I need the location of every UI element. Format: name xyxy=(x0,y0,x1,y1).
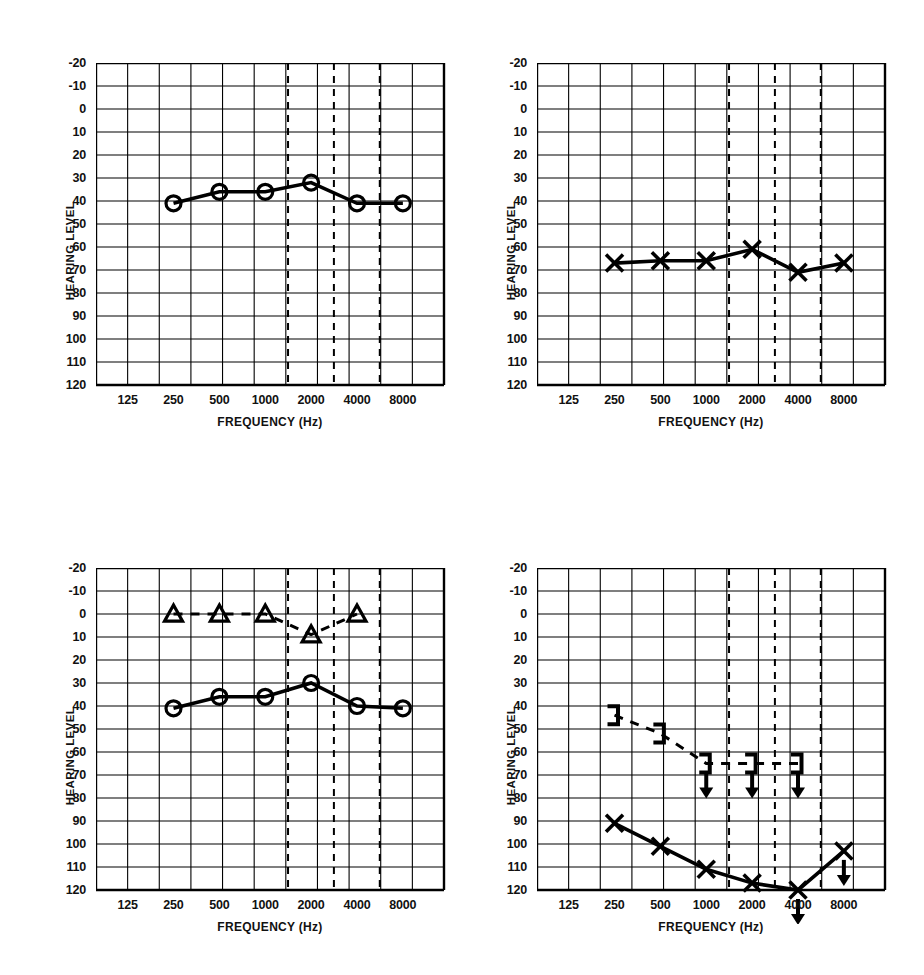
y-tick-label: -20 xyxy=(510,57,527,70)
x-tick-label: 1000 xyxy=(693,898,720,912)
y-tick-label: 120 xyxy=(507,379,527,392)
x-axis-title: FREQUENCY (Hz) xyxy=(217,415,322,429)
x-axis-title: FREQUENCY (Hz) xyxy=(658,415,763,429)
y-tick-label: 110 xyxy=(66,356,86,369)
x-tick-label: 250 xyxy=(604,898,624,912)
audiogram-grid-panel-bottom-left xyxy=(96,568,458,924)
y-tick-label: -10 xyxy=(69,585,86,598)
x-tick-label: 125 xyxy=(558,898,578,912)
y-tick-label: 50 xyxy=(513,723,527,736)
x-tick-label: 2000 xyxy=(298,898,325,912)
plot-area-bottom-left xyxy=(96,568,458,924)
audiogram-panel-top-right: HEARING LEVEL -20-1001020304050607080901… xyxy=(491,55,891,435)
y-tick-label: 110 xyxy=(507,861,527,874)
y-tick-label: 90 xyxy=(72,815,86,828)
x-tick-label: 2000 xyxy=(298,393,325,407)
audiogram-grid-panel-top-right xyxy=(537,63,899,419)
plot-area-bottom-right xyxy=(537,568,899,924)
audiogram-panel-bottom-left: HEARING LEVEL -20-1001020304050607080901… xyxy=(50,560,450,940)
y-tick-label: 90 xyxy=(513,815,527,828)
y-tick-label: 60 xyxy=(72,241,86,254)
x-tick-label: 1000 xyxy=(693,393,720,407)
y-tick-label: 100 xyxy=(507,333,527,346)
y-tick-label: 40 xyxy=(72,195,86,208)
plot-area-top-right xyxy=(537,63,899,419)
series-right-ear-air-conduction xyxy=(166,676,410,716)
y-tick-label: 70 xyxy=(72,769,86,782)
y-tick-label: 10 xyxy=(513,631,527,644)
x-axis-title: FREQUENCY (Hz) xyxy=(658,920,763,934)
x-tick-label: 4000 xyxy=(343,898,370,912)
x-tick-label: 2000 xyxy=(739,393,766,407)
y-tick-label: -20 xyxy=(69,562,86,575)
y-tick-label: 20 xyxy=(513,149,527,162)
y-tick-label: 10 xyxy=(513,126,527,139)
plot-area-top-left xyxy=(96,63,458,419)
y-tick-label: 50 xyxy=(72,218,86,231)
audiogram-grid-panel-bottom-right xyxy=(537,568,899,924)
x-tick-label: 250 xyxy=(604,393,624,407)
x-tick-label: 2000 xyxy=(739,898,766,912)
y-tick-label: 20 xyxy=(513,654,527,667)
y-tick-label: -20 xyxy=(510,562,527,575)
y-tick-label: 40 xyxy=(513,195,527,208)
x-tick-label: 250 xyxy=(163,393,183,407)
y-tick-label: 50 xyxy=(72,723,86,736)
y-tick-label: 120 xyxy=(66,379,86,392)
y-axis-tick-labels: -20-100102030405060708090100110120 xyxy=(50,55,88,435)
y-axis-tick-labels: -20-100102030405060708090100110120 xyxy=(50,560,88,940)
audiogram-panel-top-left: HEARING LEVEL -20-1001020304050607080901… xyxy=(50,55,450,435)
y-tick-label: 20 xyxy=(72,149,86,162)
y-axis-tick-labels: -20-100102030405060708090100110120 xyxy=(491,55,529,435)
x-tick-label: 1000 xyxy=(252,393,279,407)
x-axis-title: FREQUENCY (Hz) xyxy=(217,920,322,934)
x-tick-label: 4000 xyxy=(784,898,811,912)
x-tick-label: 250 xyxy=(163,898,183,912)
y-tick-label: -10 xyxy=(510,585,527,598)
x-tick-label: 8000 xyxy=(389,898,416,912)
x-tick-label: 8000 xyxy=(830,898,857,912)
x-tick-label: 500 xyxy=(650,898,670,912)
audiogram-grid-panel-top-left xyxy=(96,63,458,419)
y-tick-label: 110 xyxy=(66,861,86,874)
y-tick-label: 30 xyxy=(513,172,527,185)
x-tick-label: 125 xyxy=(117,898,137,912)
x-tick-label: 4000 xyxy=(343,393,370,407)
y-tick-label: 70 xyxy=(72,264,86,277)
y-tick-label: 100 xyxy=(66,838,86,851)
x-tick-label: 1000 xyxy=(252,898,279,912)
x-tick-label: 4000 xyxy=(784,393,811,407)
x-tick-label: 125 xyxy=(558,393,578,407)
y-tick-label: 10 xyxy=(72,631,86,644)
y-tick-label: 0 xyxy=(520,608,527,621)
y-tick-label: 60 xyxy=(72,746,86,759)
audiogram-figure-sheet: HEARING LEVEL -20-1001020304050607080901… xyxy=(0,0,924,975)
y-tick-label: 0 xyxy=(79,103,86,116)
y-tick-label: 80 xyxy=(513,287,527,300)
y-tick-label: -20 xyxy=(69,57,86,70)
y-tick-label: 0 xyxy=(79,608,86,621)
y-tick-label: 90 xyxy=(72,310,86,323)
y-axis-tick-labels: -20-100102030405060708090100110120 xyxy=(491,560,529,940)
y-tick-label: 60 xyxy=(513,241,527,254)
y-tick-label: 50 xyxy=(513,218,527,231)
y-tick-label: 100 xyxy=(507,838,527,851)
y-tick-label: -10 xyxy=(69,80,86,93)
y-tick-label: 60 xyxy=(513,746,527,759)
y-tick-label: 70 xyxy=(513,264,527,277)
x-tick-label: 500 xyxy=(650,393,670,407)
x-tick-label: 8000 xyxy=(830,393,857,407)
series-masked-bone-conduction xyxy=(165,605,366,642)
y-tick-label: 70 xyxy=(513,769,527,782)
x-tick-label: 500 xyxy=(209,898,229,912)
y-tick-label: 100 xyxy=(66,333,86,346)
y-tick-label: 80 xyxy=(72,792,86,805)
y-tick-label: -10 xyxy=(510,80,527,93)
y-tick-label: 0 xyxy=(520,103,527,116)
x-tick-label: 125 xyxy=(117,393,137,407)
y-tick-label: 20 xyxy=(72,654,86,667)
audiogram-panel-bottom-right: HEARING LEVEL -20-1001020304050607080901… xyxy=(491,560,891,940)
y-tick-label: 40 xyxy=(72,700,86,713)
y-tick-label: 80 xyxy=(72,287,86,300)
y-tick-label: 30 xyxy=(72,172,86,185)
